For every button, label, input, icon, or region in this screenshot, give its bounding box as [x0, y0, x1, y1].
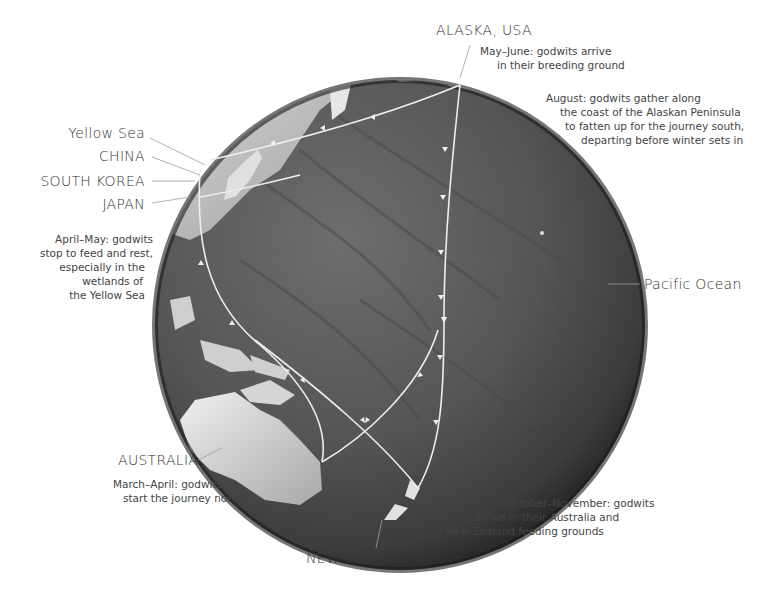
note-oct-nov: October–November: godwits arrive in thei… [446, 496, 654, 538]
note-line: New Zealand feeding grounds [446, 524, 654, 538]
note-line: start the journey north [113, 491, 242, 505]
note-line: August: godwits gather along [540, 91, 730, 105]
note-line: March–April: godwits [113, 477, 242, 491]
label-new-zealand: NEW ZEALAND [306, 550, 414, 566]
note-line: especially in the [40, 260, 153, 274]
note-line: stop to feed and rest, [40, 246, 153, 260]
note-line: arrive in their Australia and [446, 510, 654, 524]
label-south-korea: SOUTH KOREA [40, 173, 145, 189]
label-yellow-sea: Yellow Sea [68, 125, 145, 141]
note-line: October–November: godwits [446, 496, 654, 510]
note-line: April–May: godwits [40, 232, 153, 246]
note-line: May–June: godwits arrive [480, 44, 625, 58]
label-australia: AUSTRALIA [118, 452, 198, 468]
note-line: to fatten up for the journey south, [540, 119, 730, 133]
note-march-april: March–April: godwits start the journey n… [113, 477, 242, 505]
label-japan: JAPAN [102, 196, 145, 212]
note-line: wetlands of [40, 274, 153, 288]
note-may-june: May–June: godwits arrive in their breedi… [480, 44, 625, 72]
label-alaska: ALASKA, USA [436, 22, 532, 38]
note-line: the coast of the Alaskan Peninsula [540, 105, 730, 119]
note-line: in their breeding ground [480, 58, 625, 72]
note-line: the Yellow Sea [40, 288, 153, 302]
note-april-may: April–May: godwits stop to feed and rest… [40, 232, 153, 302]
note-line: departing before winter sets in [540, 133, 730, 147]
label-pacific-ocean: Pacific Ocean [644, 276, 742, 292]
label-china: CHINA [99, 148, 145, 164]
note-august: August: godwits gather along the coast o… [540, 91, 730, 147]
